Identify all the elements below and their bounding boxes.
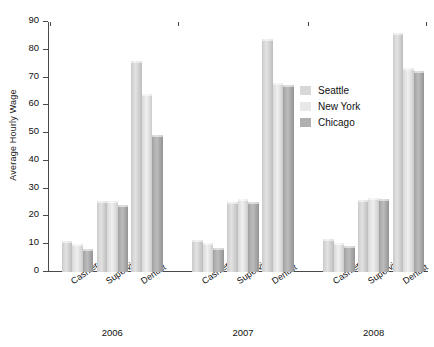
- bar-chicago: [152, 135, 163, 273]
- bar-highlight: [393, 33, 404, 35]
- legend-item-chicago: Chicago: [300, 114, 360, 130]
- bar-chicago: [283, 85, 294, 273]
- bar-highlight: [227, 202, 238, 204]
- bar-seattle: [131, 61, 142, 272]
- x-tick: [308, 22, 309, 26]
- bar-chicago: [248, 202, 259, 272]
- bar-seattle: [393, 33, 404, 272]
- bar-highlight: [323, 239, 334, 241]
- bar-seattle: [323, 239, 334, 272]
- bar-chicago: [118, 205, 129, 272]
- plot-area: 0102030405060708090: [48, 22, 428, 272]
- legend-swatch-new-york: [300, 102, 311, 111]
- y-tick-label: 60: [28, 97, 39, 108]
- y-tick-label: 40: [28, 153, 39, 164]
- bar-seattle: [192, 240, 203, 272]
- bar-highlight: [403, 68, 414, 70]
- bar-highlight: [379, 199, 390, 201]
- bar-chicago: [414, 71, 425, 272]
- bars-layer: [48, 22, 428, 272]
- y-tick-label: 80: [28, 42, 39, 53]
- legend-label-new-york: New York: [318, 101, 360, 112]
- bar-chart: Average Hourly Wage 0102030405060708090 …: [0, 0, 434, 347]
- bar-highlight: [334, 243, 345, 245]
- bar-seattle: [358, 200, 369, 272]
- legend-label-seattle: Seattle: [318, 85, 349, 96]
- x-tick: [50, 22, 51, 26]
- legend-swatch-seattle: [300, 86, 311, 95]
- bar-new-york: [238, 199, 249, 272]
- legend-swatch-chicago: [300, 118, 311, 127]
- y-tick-label: 70: [28, 70, 39, 81]
- bar-chicago: [344, 246, 355, 272]
- bar-highlight: [192, 240, 203, 242]
- bar-new-york: [334, 243, 345, 272]
- y-tick-label: 20: [28, 208, 39, 219]
- legend-item-new-york: New York: [300, 98, 360, 114]
- bar-highlight: [273, 83, 284, 85]
- bar-highlight: [72, 244, 83, 246]
- bar-highlight: [131, 61, 142, 63]
- bar-new-york: [107, 201, 118, 272]
- legend-label-chicago: Chicago: [318, 117, 355, 128]
- bar-chicago: [83, 249, 94, 272]
- bar-new-york: [203, 243, 214, 272]
- bar-highlight: [248, 202, 259, 204]
- bar-highlight: [283, 85, 294, 87]
- bar-new-york: [72, 244, 83, 272]
- bar-highlight: [368, 198, 379, 200]
- bar-highlight: [142, 94, 153, 96]
- bar-seattle: [62, 241, 73, 272]
- bar-highlight: [344, 246, 355, 248]
- y-tick-label: 30: [28, 181, 39, 192]
- bar-highlight: [238, 199, 249, 201]
- bar-highlight: [97, 201, 108, 203]
- x-tick: [178, 22, 179, 26]
- group-label-2007: 2007: [223, 327, 263, 338]
- bar-seattle: [262, 39, 273, 272]
- bar-highlight: [213, 248, 224, 250]
- bar-chicago: [379, 199, 390, 272]
- group-label-2008: 2008: [354, 327, 394, 338]
- y-tick-label: 0: [34, 264, 39, 275]
- bar-highlight: [203, 243, 214, 245]
- group-label-2006: 2006: [92, 327, 132, 338]
- bar-highlight: [152, 135, 163, 137]
- x-tick: [426, 22, 427, 26]
- y-tick-label: 90: [28, 14, 39, 25]
- bar-chicago: [213, 248, 224, 272]
- legend-item-seattle: Seattle: [300, 82, 360, 98]
- y-axis-title: Average Hourly Wage: [8, 55, 22, 215]
- bar-highlight: [358, 200, 369, 202]
- bar-new-york: [403, 68, 414, 272]
- y-tick-label: 10: [28, 236, 39, 247]
- bar-highlight: [118, 205, 129, 207]
- bar-highlight: [262, 39, 273, 41]
- bar-highlight: [62, 241, 73, 243]
- y-tick-label: 50: [28, 125, 39, 136]
- bar-new-york: [368, 198, 379, 272]
- bar-seattle: [227, 202, 238, 272]
- bar-highlight: [414, 71, 425, 73]
- bar-new-york: [273, 83, 284, 272]
- legend: Seattle New York Chicago: [300, 82, 360, 130]
- bar-highlight: [83, 249, 94, 251]
- bar-new-york: [142, 94, 153, 272]
- bar-seattle: [97, 201, 108, 272]
- bar-highlight: [107, 201, 118, 203]
